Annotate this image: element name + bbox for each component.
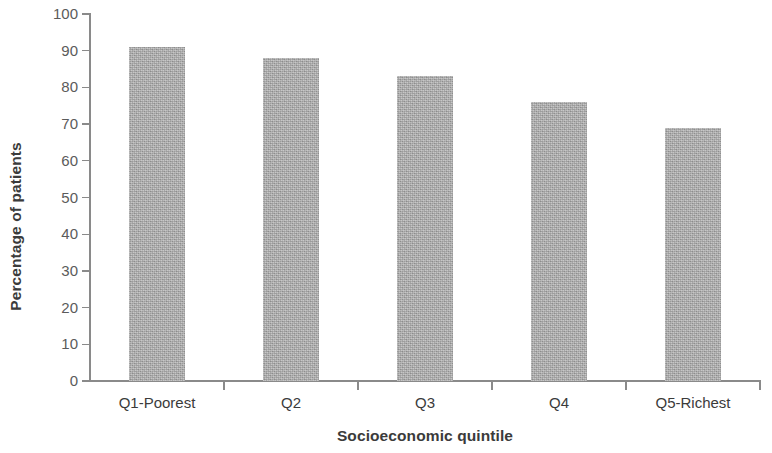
y-tick-mark bbox=[82, 344, 90, 345]
bar bbox=[531, 102, 587, 381]
bar bbox=[397, 76, 453, 381]
y-tick-label: 0 bbox=[18, 373, 78, 388]
y-tick-mark bbox=[82, 87, 90, 88]
x-axis-title: Socioeconomic quintile bbox=[90, 427, 760, 445]
x-tick-mark bbox=[759, 381, 760, 390]
x-tick-label: Q4 bbox=[492, 394, 626, 411]
y-tick-mark bbox=[82, 123, 90, 124]
y-tick-mark bbox=[82, 197, 90, 198]
y-tick-mark bbox=[82, 380, 90, 381]
bar bbox=[665, 128, 721, 381]
y-tick-label: 80 bbox=[18, 79, 78, 94]
y-tick-label: 60 bbox=[18, 153, 78, 168]
x-tick-label: Q5-Richest bbox=[626, 394, 760, 411]
y-tick-mark bbox=[82, 50, 90, 51]
x-tick-label: Q3 bbox=[358, 394, 492, 411]
y-tick-mark bbox=[82, 234, 90, 235]
y-tick-label: 100 bbox=[18, 6, 78, 21]
y-tick-label: 70 bbox=[18, 116, 78, 131]
y-tick-mark bbox=[82, 13, 90, 14]
y-tick-mark bbox=[82, 160, 90, 161]
y-tick-mark bbox=[82, 307, 90, 308]
y-tick-mark bbox=[82, 270, 90, 271]
x-tick-mark bbox=[491, 381, 492, 390]
x-tick-mark bbox=[625, 381, 626, 390]
x-tick-mark bbox=[357, 381, 358, 390]
y-tick-label: 50 bbox=[18, 190, 78, 205]
y-tick-label: 10 bbox=[18, 336, 78, 351]
y-tick-label: 30 bbox=[18, 263, 78, 278]
y-tick-label: 90 bbox=[18, 43, 78, 58]
plot-area bbox=[90, 14, 760, 381]
y-tick-label: 20 bbox=[18, 300, 78, 315]
x-tick-mark bbox=[223, 381, 224, 390]
x-tick-label: Q1-Poorest bbox=[90, 394, 224, 411]
bar bbox=[129, 47, 185, 381]
bar bbox=[263, 58, 319, 381]
y-tick-label: 40 bbox=[18, 226, 78, 241]
x-tick-label: Q2 bbox=[224, 394, 358, 411]
bar-chart: Percentage of patients 01020304050607080… bbox=[0, 0, 772, 453]
